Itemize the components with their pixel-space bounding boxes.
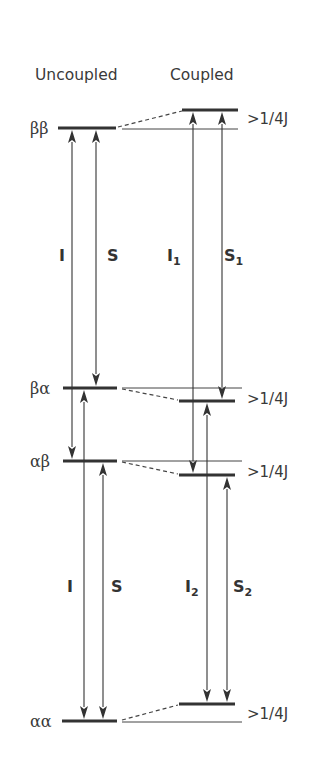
arrowhead-up-icon bbox=[80, 390, 88, 403]
arrowhead-down-icon bbox=[68, 446, 76, 459]
level-ab: >1/4J bbox=[63, 461, 288, 481]
arrowhead-up-icon bbox=[189, 112, 197, 125]
coupled-transition-I2 bbox=[203, 403, 211, 702]
label-uncoupled-I-upper: I bbox=[59, 246, 65, 265]
coupling-shift-label-ab: >1/4J bbox=[247, 463, 288, 481]
state-label-aa: αα bbox=[30, 712, 52, 731]
coupled-transition-S2 bbox=[223, 477, 231, 702]
shift-dash-bb bbox=[118, 111, 182, 127]
coupling-shift-label-bb: >1/4J bbox=[247, 110, 288, 128]
label-coupled-S2: S2 bbox=[233, 577, 252, 599]
arrowhead-up-icon bbox=[68, 130, 76, 143]
arrowhead-up-icon bbox=[223, 477, 231, 490]
state-label-bb: ββ bbox=[30, 119, 49, 138]
shift-dash-ab bbox=[122, 462, 178, 474]
arrowhead-down-icon bbox=[223, 689, 231, 702]
coupling-shift-label-aa: >1/4J bbox=[247, 705, 288, 723]
arrowhead-up-icon bbox=[99, 463, 107, 476]
level-aa: >1/4J bbox=[62, 704, 288, 723]
arrowhead-down-icon bbox=[203, 689, 211, 702]
uncoupled-transition-I-upper bbox=[68, 130, 76, 459]
arrowhead-up-icon bbox=[203, 403, 211, 416]
arrowhead-up-icon bbox=[92, 130, 100, 143]
coupled-header: Coupled bbox=[170, 66, 234, 84]
label-coupled-I2: I2 bbox=[185, 577, 199, 599]
coupled-transition-I1 bbox=[189, 112, 197, 473]
shift-dash-ba bbox=[122, 389, 178, 400]
state-label-ba: βα bbox=[30, 379, 50, 398]
arrowhead-up-icon bbox=[218, 112, 226, 125]
shift-dash-aa bbox=[122, 705, 178, 720]
uncoupled-transition-I-lower bbox=[80, 390, 88, 719]
uncoupled-header: Uncoupled bbox=[35, 66, 118, 84]
energy-level-diagram: Uncoupled Coupled ββ βα αβ αα >1/4J >1/4… bbox=[0, 0, 317, 764]
label-uncoupled-I-lower: I bbox=[67, 577, 73, 596]
level-ba: >1/4J bbox=[63, 388, 288, 408]
arrowhead-down-icon bbox=[92, 373, 100, 386]
arrowhead-down-icon bbox=[99, 706, 107, 719]
arrowhead-down-icon bbox=[189, 460, 197, 473]
uncoupled-transition-S-upper bbox=[92, 130, 100, 386]
label-uncoupled-S-upper: S bbox=[107, 246, 119, 265]
label-uncoupled-S-lower: S bbox=[111, 577, 123, 596]
label-coupled-S1: S1 bbox=[224, 246, 243, 268]
state-label-ab: αβ bbox=[30, 452, 50, 471]
uncoupled-transition-S-lower bbox=[99, 463, 107, 719]
level-bb: >1/4J bbox=[58, 110, 288, 129]
label-coupled-I1: I1 bbox=[167, 246, 181, 268]
arrowhead-down-icon bbox=[80, 706, 88, 719]
coupling-shift-label-ba: >1/4J bbox=[247, 390, 288, 408]
